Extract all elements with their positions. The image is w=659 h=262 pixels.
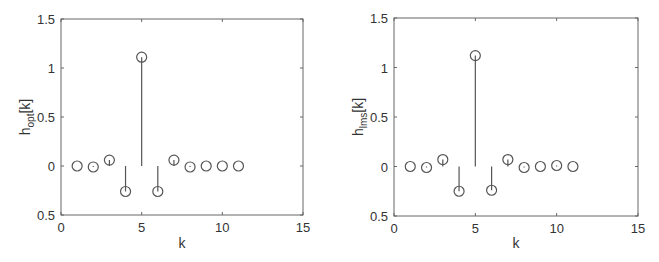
stem-point [217, 161, 227, 171]
stem-point [153, 166, 163, 196]
open-circle-marker-icon [217, 161, 227, 171]
stem-point [422, 162, 432, 172]
axes-box [61, 19, 303, 215]
axes-box [394, 18, 638, 216]
x-axis-label: k [513, 235, 521, 251]
stem-point [519, 162, 529, 172]
data-series [405, 51, 578, 197]
y-tick-label: 1.5 [370, 11, 388, 26]
x-tick-label: 15 [631, 221, 645, 236]
open-circle-marker-icon [201, 161, 211, 171]
stem-point [233, 161, 243, 171]
open-circle-marker-icon [405, 162, 415, 172]
x-tick-label: 5 [472, 221, 479, 236]
open-circle-marker-icon [233, 161, 243, 171]
x-axis-label: k [179, 235, 187, 251]
x-tick-label: 0 [57, 220, 64, 235]
stem-plot-h-opt: 051015 0.500.511.5 k hopt[k] [0, 0, 330, 262]
stem-point [137, 52, 147, 166]
x-tick-labels: 051015 [390, 221, 645, 236]
x-tick-labels: 051015 [57, 220, 310, 235]
stem-point [552, 161, 562, 171]
stem-point [88, 162, 98, 172]
stem-point [72, 161, 82, 171]
x-tick-label: 10 [215, 220, 229, 235]
open-circle-marker-icon [72, 161, 82, 171]
plot-canvas: 051015 0.500.511.5 k hlms[k] [330, 0, 659, 262]
stem-plot-h-lms: 051015 0.500.511.5 k hlms[k] [330, 0, 659, 262]
y-tick-label: 0.5 [370, 209, 388, 224]
x-tick-label: 15 [296, 220, 310, 235]
stem-point [470, 51, 480, 167]
stem-point [487, 167, 497, 196]
data-series [72, 52, 243, 196]
open-circle-marker-icon [568, 162, 578, 172]
x-tick-label: 5 [138, 220, 145, 235]
y-tick-label: 1.5 [37, 12, 55, 27]
stem-point [405, 162, 415, 172]
stem-point [104, 155, 114, 166]
y-tick-label: 1 [48, 61, 55, 76]
stem-point [438, 155, 448, 167]
stem-point [121, 166, 131, 196]
y-tick-label: 0.5 [37, 110, 55, 125]
y-tick-label: 0 [381, 160, 388, 175]
y-axis-label: hopt[k] [17, 99, 36, 135]
x-tick-label: 10 [549, 221, 563, 236]
y-axis-label: hlms[k] [350, 98, 369, 136]
y-tick-label: 0.5 [37, 208, 55, 223]
y-tick-labels: 0.500.511.5 [37, 12, 55, 223]
stem-point [503, 155, 513, 167]
x-tick-label: 0 [390, 221, 397, 236]
stem-point [169, 155, 179, 166]
stem-point [454, 167, 464, 197]
stem-point [185, 162, 195, 172]
stem-point [535, 162, 545, 172]
y-tick-label: 0.5 [370, 110, 388, 125]
stem-point [201, 161, 211, 171]
open-circle-marker-icon [535, 162, 545, 172]
y-tick-label: 0 [48, 159, 55, 174]
stem-point [568, 162, 578, 172]
plot-canvas: 051015 0.500.511.5 k hopt[k] [0, 0, 330, 262]
y-tick-label: 1 [381, 61, 388, 76]
y-tick-labels: 0.500.511.5 [370, 11, 388, 224]
